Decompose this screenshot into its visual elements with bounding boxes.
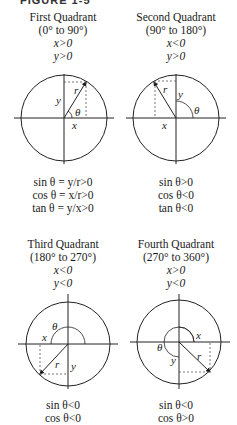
q3-y-label: y [70,360,76,372]
q2-y-label: y [177,88,183,100]
q2-x-label: x [161,119,167,131]
q3-theta-label: θ [52,320,58,332]
q2-theta-label: θ [194,104,200,116]
q3-circle-diagram: θ x r y [18,294,118,389]
q4-x-label: x [195,329,201,341]
q1-circle-diagram: r y θ x [14,74,114,164]
q2-r-label: r [163,83,168,95]
q4-circle-diagram: x θ r y [130,294,230,389]
q1-theta-label: θ [75,106,81,118]
q1-y-label: y [55,94,61,106]
q2-circle-diagram: r y θ x [126,74,226,164]
q1-x-label: x [71,119,77,131]
q3-r-label: r [55,358,60,370]
q4-y-label: y [170,354,176,366]
quadrant-diagrams: r y θ x r y θ x θ x r y [0,0,237,425]
q1-r-label: r [74,84,79,96]
q3-x-label: x [41,331,47,343]
q4-theta-label: θ [157,341,163,353]
q4-r-label: r [197,350,202,362]
